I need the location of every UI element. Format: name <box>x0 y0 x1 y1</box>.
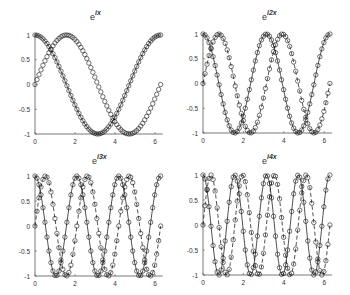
y-tick-label: 1 <box>26 173 30 180</box>
data-marker <box>61 267 65 271</box>
series-line-sin <box>203 34 330 133</box>
series-line-sin <box>35 176 161 276</box>
x-tick-label: 6 <box>153 138 157 145</box>
x-tick-label: 2 <box>242 279 246 286</box>
subplot-e-i4x: -1-0.500.510246ei4x <box>187 153 332 286</box>
data-marker <box>39 68 43 72</box>
y-tick-label: 0.5 <box>189 55 198 62</box>
x-tick-label: 4 <box>113 280 117 287</box>
subplot-e-ix: -1-0.500.510246eix <box>19 9 163 145</box>
data-marker <box>93 75 97 79</box>
y-tick-label: -0.5 <box>187 247 199 254</box>
y-tick-label: -0.5 <box>19 106 31 113</box>
data-marker <box>37 72 41 76</box>
data-marker <box>35 77 39 81</box>
y-tick-label: 1 <box>194 31 198 38</box>
data-marker <box>95 80 99 84</box>
y-tick-label: -1 <box>192 130 198 137</box>
data-marker <box>97 85 101 89</box>
data-marker <box>148 106 152 110</box>
y-tick-label: 0 <box>194 222 198 229</box>
data-marker <box>318 123 322 127</box>
data-marker <box>89 65 93 69</box>
x-tick-label: 4 <box>282 279 286 286</box>
x-tick-label: 6 <box>322 279 326 286</box>
subplot-title: ei4x <box>262 153 278 166</box>
data-marker <box>223 41 227 45</box>
x-tick-label: 4 <box>282 137 286 144</box>
data-marker <box>85 56 89 60</box>
x-tick-label: 4 <box>113 138 117 145</box>
subplot-e-i3x: -1-0.500.510246ei3x <box>19 153 163 287</box>
data-marker <box>41 63 45 67</box>
y-tick-label: 0 <box>26 223 30 230</box>
x-tick-label: 6 <box>153 280 157 287</box>
data-marker <box>99 90 103 94</box>
data-marker <box>158 82 162 86</box>
data-marker <box>125 177 129 181</box>
data-marker <box>105 104 109 108</box>
subplot-title: ei2x <box>262 9 278 22</box>
x-tick-label: 0 <box>201 279 205 286</box>
y-tick-label: -1 <box>192 272 198 279</box>
series-line-cos <box>35 35 161 134</box>
data-marker <box>89 181 93 185</box>
series-line-cos <box>203 34 330 133</box>
subplot-title: ei3x <box>92 153 108 166</box>
x-tick-label: 0 <box>33 138 37 145</box>
data-marker <box>152 97 156 101</box>
data-marker <box>150 102 154 106</box>
data-marker <box>91 70 95 74</box>
data-marker <box>83 52 87 56</box>
data-marker <box>103 99 107 103</box>
x-tick-label: 2 <box>242 137 246 144</box>
y-tick-label: 0.5 <box>21 198 30 205</box>
data-marker <box>107 108 111 112</box>
y-tick-label: 0.5 <box>189 197 198 204</box>
x-tick-label: 2 <box>73 280 77 287</box>
figure: -1-0.500.510246eix -1-0.500.510246ei2x -… <box>0 0 350 295</box>
series-line-cos <box>35 176 161 276</box>
y-tick-label: -1 <box>24 273 30 280</box>
x-tick-label: 6 <box>322 137 326 144</box>
data-marker <box>147 110 151 114</box>
y-tick-label: 1 <box>194 172 198 179</box>
data-marker <box>87 61 91 65</box>
x-tick-label: 2 <box>73 138 77 145</box>
y-tick-label: -1 <box>24 131 30 138</box>
data-marker <box>320 117 324 121</box>
data-marker <box>101 95 105 99</box>
y-tick-label: 1 <box>26 32 30 39</box>
x-tick-label: 0 <box>33 280 37 287</box>
y-tick-label: 0.5 <box>21 56 30 63</box>
data-marker <box>322 109 326 113</box>
data-marker <box>253 125 257 129</box>
y-tick-label: 0 <box>194 80 198 87</box>
x-tick-label: 0 <box>201 137 205 144</box>
y-tick-label: 0 <box>26 81 30 88</box>
subplot-title: eix <box>90 9 102 22</box>
data-marker <box>131 181 135 185</box>
subplot-e-i2x: -1-0.500.510246ei2x <box>187 9 332 144</box>
y-tick-label: -0.5 <box>19 248 31 255</box>
data-marker <box>209 173 213 177</box>
data-marker <box>257 113 261 117</box>
data-marker <box>154 92 158 96</box>
y-tick-label: -0.5 <box>187 105 199 112</box>
data-marker <box>43 59 47 63</box>
data-marker <box>156 87 160 91</box>
data-marker <box>211 177 215 181</box>
